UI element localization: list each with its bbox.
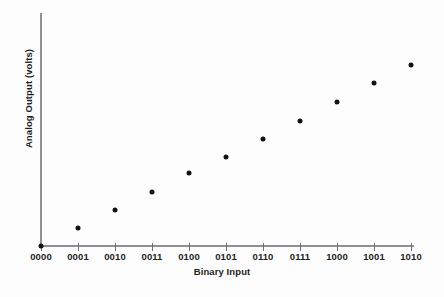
x-axis-line [40, 245, 414, 247]
y-axis-line [40, 13, 42, 247]
x-axis-tick [411, 243, 412, 251]
data-point [224, 155, 229, 160]
x-axis-tick-label: 0100 [178, 251, 200, 262]
x-axis-tick-label: 0000 [30, 251, 52, 262]
x-axis-tick [115, 243, 116, 251]
data-point [261, 137, 266, 142]
x-axis-tick-label: 0010 [104, 251, 126, 262]
x-axis-tick [78, 243, 79, 251]
x-axis-tick-label: 0101 [215, 251, 237, 262]
dac-transfer-chart: 0000000100100011010001010110011110001001… [0, 0, 444, 297]
x-axis-tick-label: 0110 [252, 251, 273, 262]
x-axis-title: Binary Input [0, 266, 444, 277]
data-point [76, 226, 81, 231]
data-point [187, 171, 192, 176]
x-axis-tick [152, 243, 153, 251]
data-point [113, 208, 118, 213]
data-point [150, 190, 155, 195]
data-point [298, 119, 303, 124]
x-axis-tick [189, 243, 190, 251]
x-axis-tick-label: 1001 [363, 251, 385, 262]
x-axis-tick [337, 243, 338, 251]
x-axis-tick [263, 243, 264, 251]
x-axis-tick [226, 243, 227, 251]
x-axis-tick-label: 0011 [141, 251, 162, 262]
x-axis-tick-label: 1010 [400, 251, 422, 262]
y-axis-title: Analog Output (volts) [23, 24, 34, 174]
x-axis-tick-label: 0001 [67, 251, 89, 262]
x-axis-tick [374, 243, 375, 251]
data-point [372, 81, 377, 86]
data-point [39, 244, 44, 249]
data-point [409, 63, 414, 68]
data-point [335, 100, 340, 105]
x-axis-tick [300, 243, 301, 251]
x-axis-tick-label: 0111 [290, 251, 311, 262]
x-axis-tick-label: 1000 [326, 251, 348, 262]
